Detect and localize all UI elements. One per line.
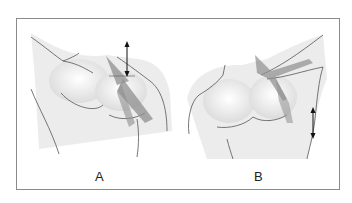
panel-label-b: B [254, 169, 263, 184]
panel-b-drawing [187, 35, 327, 159]
anatomy-illustration [17, 19, 341, 191]
panel-a-drawing [31, 33, 172, 157]
figure-frame: A B [16, 18, 340, 190]
panel-label-a: A [95, 169, 104, 184]
